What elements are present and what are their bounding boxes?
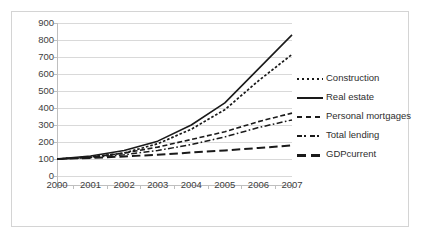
legend-label: Total lending xyxy=(326,129,379,140)
dash-dot-line-key xyxy=(297,135,323,137)
axis-lines xyxy=(54,23,292,185)
y-axis-tick-label: 400 xyxy=(20,103,54,113)
solid-line-key xyxy=(297,97,323,102)
y-axis-tick-label: 600 xyxy=(20,69,54,79)
x-axis-tick-label: 2000 xyxy=(40,180,74,190)
x-axis-tick-label: 2005 xyxy=(208,180,242,190)
y-axis-tick-label: 900 xyxy=(20,18,54,28)
legend-label: Construction xyxy=(326,72,379,83)
x-axis-tick-label: 2001 xyxy=(74,180,108,190)
series-line-personal-mortgages xyxy=(57,113,292,159)
dashed-line-key xyxy=(297,116,323,118)
x-axis-tick-label: 2007 xyxy=(275,180,309,190)
y-axis-tick-label: 800 xyxy=(20,35,54,45)
x-axis-tick-label: 2004 xyxy=(175,180,209,190)
chart-container: 0100200300400500600700800900 20002001200… xyxy=(11,11,409,227)
legend-label: Real estate xyxy=(326,91,374,102)
dotted-line-key xyxy=(297,78,323,80)
legend-item[interactable]: Total lending xyxy=(297,127,409,145)
y-axis-tick-label: 300 xyxy=(20,120,54,130)
legend-item[interactable]: GDPcurrent xyxy=(297,146,409,164)
legend-item[interactable]: Construction xyxy=(297,70,409,88)
y-axis-tick-label: 500 xyxy=(20,86,54,96)
legend-item[interactable]: Real estate xyxy=(297,89,409,107)
series-line-real-estate xyxy=(57,35,292,159)
long-dash-line-key xyxy=(297,154,323,157)
x-axis-tick-label: 2006 xyxy=(242,180,276,190)
chart-legend: ConstructionReal estatePersonal mortgage… xyxy=(297,70,409,170)
x-axis-tick-label: 2002 xyxy=(107,180,141,190)
y-axis-tick-label: 700 xyxy=(20,52,54,62)
legend-item[interactable]: Personal mortgages xyxy=(297,108,409,126)
legend-label: GDPcurrent xyxy=(326,148,376,159)
y-axis-tick-label: 100 xyxy=(20,154,54,164)
x-axis-labels: 20002001200220032004200520062007 xyxy=(12,180,302,200)
y-axis-tick-label: 200 xyxy=(20,137,54,147)
legend-label: Personal mortgages xyxy=(326,110,411,121)
data-series-group xyxy=(57,35,292,159)
x-axis-tick-label: 2003 xyxy=(141,180,175,190)
